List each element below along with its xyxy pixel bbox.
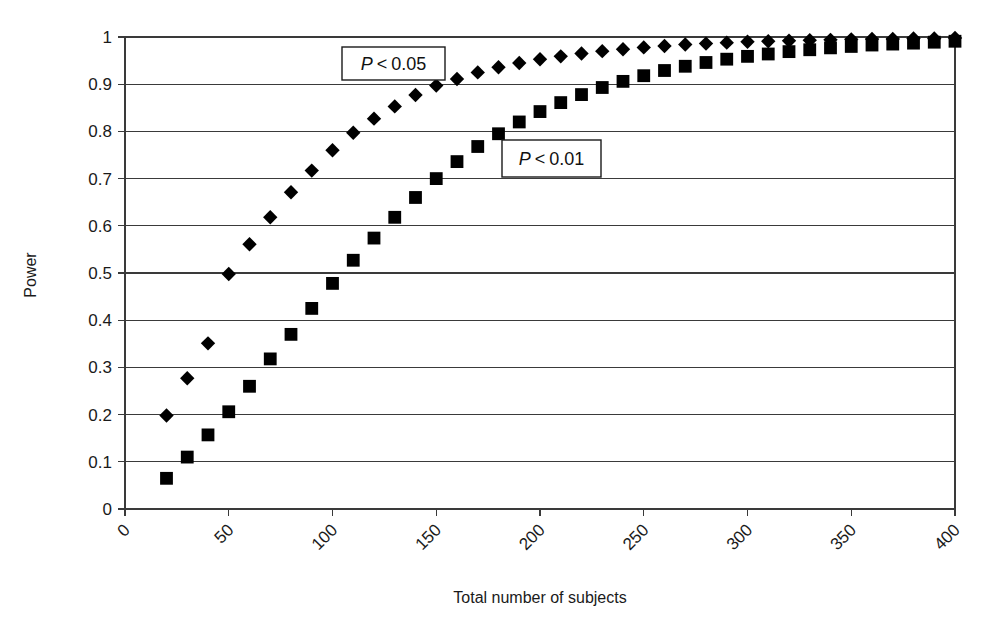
data-point-square-230 (596, 81, 609, 94)
data-point-square-400 (949, 35, 962, 48)
y-tick-label-0.7: 0.7 (88, 170, 112, 189)
y-tick-label-1: 1 (103, 28, 112, 47)
annotation-box-p01: P<0.01 (502, 140, 601, 177)
y-axis-tick-labels: 00.10.20.30.40.50.60.70.80.91 (88, 28, 112, 519)
data-point-square-110 (347, 254, 360, 267)
y-axis-title: Power (22, 252, 39, 298)
value-p01: 0.01 (549, 149, 584, 169)
page-caption-fragment (0, 614, 992, 640)
data-point-diamond-240 (616, 42, 630, 56)
annotation-box-p05-label: P<0.05 (361, 54, 427, 74)
data-point-square-100 (326, 277, 339, 290)
data-point-square-30 (181, 451, 194, 464)
data-point-square-160 (451, 155, 464, 168)
series-markers-p05 (159, 31, 962, 423)
data-point-diamond-90 (305, 163, 319, 177)
series-markers-p01 (160, 35, 961, 485)
data-point-diamond-40 (201, 336, 215, 350)
data-point-square-270 (679, 60, 692, 73)
data-point-square-250 (637, 69, 650, 82)
operator-p05: < (377, 54, 388, 74)
y-tick-label-0: 0 (103, 500, 112, 519)
data-point-diamond-190 (512, 56, 526, 70)
y-tick-label-0.5: 0.5 (88, 264, 112, 283)
y-tick-label-0.2: 0.2 (88, 406, 112, 425)
p-symbol-p01: P (519, 149, 531, 169)
data-point-square-380 (907, 37, 920, 50)
data-point-square-260 (658, 64, 671, 77)
data-point-square-300 (741, 50, 754, 63)
data-point-diamond-290 (720, 35, 734, 49)
data-point-diamond-260 (657, 39, 671, 53)
data-point-square-190 (513, 116, 526, 129)
data-point-square-50 (222, 405, 235, 418)
x-tick-label-250: 250 (619, 520, 652, 553)
data-point-diamond-100 (325, 143, 339, 157)
data-point-square-150 (430, 172, 443, 185)
data-point-diamond-110 (346, 126, 360, 140)
annotation-box-p05: P<0.05 (342, 47, 445, 80)
data-point-square-20 (160, 472, 173, 485)
data-point-diamond-30 (180, 371, 194, 385)
data-point-diamond-250 (637, 40, 651, 54)
data-point-square-240 (617, 75, 630, 88)
x-axis-tick-labels: 050100150200250300350400 (114, 520, 964, 553)
x-tick-label-150: 150 (412, 520, 445, 553)
data-point-square-80 (285, 328, 298, 341)
p-symbol-p05: P (361, 54, 373, 74)
data-point-square-90 (305, 302, 318, 315)
data-point-diamond-140 (408, 88, 422, 102)
y-tick-label-0.9: 0.9 (88, 75, 112, 94)
data-point-square-170 (471, 140, 484, 153)
data-point-diamond-280 (699, 36, 713, 50)
data-point-square-360 (866, 39, 879, 52)
data-point-square-60 (243, 380, 256, 393)
data-point-diamond-180 (491, 60, 505, 74)
data-point-square-350 (845, 40, 858, 53)
x-tick-label-350: 350 (827, 520, 860, 553)
annotation-box-p01-label: P<0.01 (519, 149, 585, 169)
x-tick-label-0: 0 (114, 520, 134, 540)
x-tick-label-300: 300 (723, 520, 756, 553)
data-point-square-310 (762, 48, 775, 61)
x-axis-title: Total number of subjects (453, 589, 626, 606)
y-tick-label-0.1: 0.1 (88, 453, 112, 472)
data-point-square-40 (202, 428, 215, 441)
data-point-diamond-70 (263, 210, 277, 224)
value-p05: 0.05 (391, 54, 426, 74)
data-point-square-120 (368, 232, 381, 245)
power-curve-figure: 00.10.20.30.40.50.60.70.80.91 0501001502… (0, 0, 992, 640)
data-point-square-180 (492, 127, 505, 140)
data-point-diamond-220 (574, 46, 588, 60)
data-point-square-210 (554, 96, 567, 109)
y-tick-label-0.6: 0.6 (88, 217, 112, 236)
operator-p01: < (535, 149, 546, 169)
data-point-diamond-60 (242, 237, 256, 251)
data-point-square-330 (803, 43, 816, 56)
data-point-square-130 (388, 211, 401, 224)
data-point-square-70 (264, 353, 277, 366)
data-point-square-280 (700, 56, 713, 69)
data-point-square-200 (534, 105, 547, 118)
data-point-diamond-130 (388, 99, 402, 113)
data-point-square-320 (783, 45, 796, 58)
data-point-diamond-120 (367, 111, 381, 125)
x-tick-label-100: 100 (308, 520, 341, 553)
data-point-square-340 (824, 41, 837, 54)
data-point-diamond-20 (159, 408, 173, 422)
data-point-square-370 (886, 38, 899, 51)
x-tick-label-50: 50 (211, 520, 238, 547)
data-point-diamond-230 (595, 44, 609, 58)
data-point-diamond-80 (284, 185, 298, 199)
data-point-diamond-210 (554, 49, 568, 63)
data-point-diamond-270 (678, 37, 692, 51)
data-point-diamond-200 (533, 52, 547, 66)
data-point-square-290 (720, 53, 733, 66)
data-point-diamond-170 (471, 65, 485, 79)
y-tick-label-0.3: 0.3 (88, 358, 112, 377)
x-tick-label-400: 400 (930, 520, 963, 553)
data-point-square-220 (575, 88, 588, 101)
data-point-square-390 (928, 36, 941, 49)
x-tick-label-200: 200 (515, 520, 548, 553)
y-tick-label-0.8: 0.8 (88, 122, 112, 141)
